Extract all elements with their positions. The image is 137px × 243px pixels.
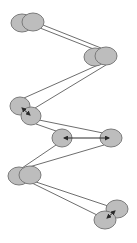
node-n6b[interactable] [94,211,116,229]
diagram-canvas [0,0,137,243]
node-n5b[interactable] [19,166,41,184]
edge-line [40,28,96,50]
node-n1b[interactable] [22,13,44,31]
edge-line [36,124,56,131]
nodes-layer [8,13,128,229]
edge-line [24,65,98,98]
edge-line [39,120,103,133]
node-n2b[interactable] [95,47,117,65]
edge-line [43,25,101,48]
edge-line [35,65,106,108]
